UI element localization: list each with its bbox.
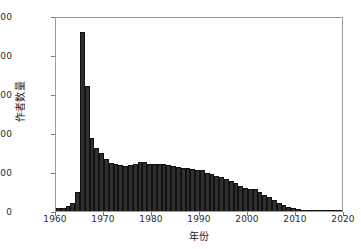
ytick-label-4000: 4000 xyxy=(0,130,12,139)
bars-layer xyxy=(56,18,342,211)
xtick-label-2020: 2020 xyxy=(321,215,361,224)
ytick-label-2000: 2000 xyxy=(0,169,12,178)
xtick-label-2000: 2000 xyxy=(225,215,269,224)
ytick-label-8000: 8000 xyxy=(0,52,12,61)
ytick-label-6000: 6000 xyxy=(0,91,12,100)
xtick-label-1970: 1970 xyxy=(81,215,125,224)
xtick-label-1990: 1990 xyxy=(177,215,221,224)
xtick-label-1980: 1980 xyxy=(129,215,173,224)
ytick-label-10000: 10000 xyxy=(0,13,12,22)
ytick-label-0: 0 xyxy=(0,208,12,217)
histogram-figure: 10000 8000 6000 4000 2000 0 1960 1970 19… xyxy=(0,0,361,249)
plot-area xyxy=(55,17,343,212)
xtick-label-1960: 1960 xyxy=(33,215,77,224)
y-axis-title: 作者数量 xyxy=(12,62,27,142)
x-axis-title: 年份 xyxy=(55,228,343,243)
xtick-label-2010: 2010 xyxy=(273,215,317,224)
histogram-bar xyxy=(339,210,343,211)
